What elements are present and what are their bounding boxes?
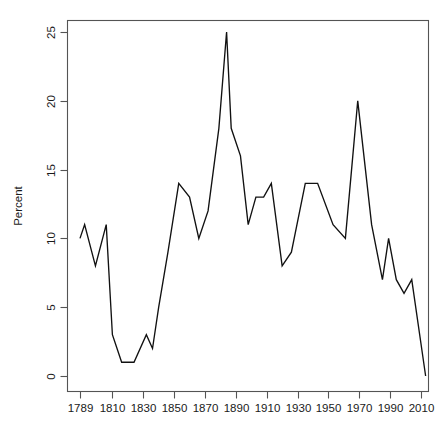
x-axis-ticks bbox=[81, 392, 422, 399]
x-tick-label-1970: 1970 bbox=[347, 402, 373, 414]
y-axis-tick-labels: 0510152025 bbox=[45, 26, 57, 380]
x-tick-label-1990: 1990 bbox=[378, 402, 404, 414]
y-axis-title: Percent bbox=[12, 185, 24, 225]
x-tick-label-1810: 1810 bbox=[100, 402, 126, 414]
line-chart: 0510152025 17891810183018501870189019101… bbox=[0, 0, 448, 436]
x-tick-label-1789: 1789 bbox=[68, 402, 94, 414]
x-tick-label-1930: 1930 bbox=[286, 402, 312, 414]
x-tick-label-1950: 1950 bbox=[316, 402, 342, 414]
y-tick-label-5: 5 bbox=[45, 304, 57, 310]
x-axis-tick-labels: 1789181018301850187018901910193019501970… bbox=[68, 402, 435, 414]
y-tick-label-0: 0 bbox=[45, 373, 57, 379]
x-tick-label-1850: 1850 bbox=[162, 402, 188, 414]
x-tick-label-1830: 1830 bbox=[131, 402, 157, 414]
x-tick-label-1910: 1910 bbox=[255, 402, 281, 414]
y-axis-ticks bbox=[61, 33, 68, 377]
y-tick-label-20: 20 bbox=[45, 95, 57, 108]
x-tick-label-1870: 1870 bbox=[193, 402, 219, 414]
y-tick-label-25: 25 bbox=[45, 26, 57, 39]
x-tick-label-1890: 1890 bbox=[224, 402, 250, 414]
y-tick-label-10: 10 bbox=[45, 232, 57, 245]
chart-container: 0510152025 17891810183018501870189019101… bbox=[0, 0, 448, 436]
x-tick-label-2010: 2010 bbox=[409, 402, 435, 414]
y-tick-label-15: 15 bbox=[45, 164, 57, 177]
data-series-line bbox=[80, 32, 426, 376]
plot-box-border bbox=[68, 21, 429, 392]
